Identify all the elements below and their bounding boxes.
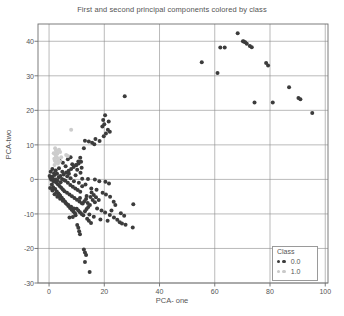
data-point xyxy=(64,164,68,168)
data-point xyxy=(79,160,83,164)
data-point xyxy=(97,179,101,183)
data-point xyxy=(54,168,58,172)
legend-swatch-1b xyxy=(282,270,285,273)
data-point xyxy=(310,111,314,115)
data-point xyxy=(97,198,101,202)
data-point xyxy=(103,211,107,215)
data-point xyxy=(78,156,82,160)
data-point xyxy=(80,166,84,170)
x-tick-label: 40 xyxy=(156,288,164,295)
legend-swatch-0 xyxy=(277,260,280,263)
data-point xyxy=(73,211,77,215)
data-point xyxy=(72,179,76,183)
data-point xyxy=(86,177,90,181)
data-point xyxy=(120,222,124,226)
y-tick-label: -10 xyxy=(12,210,34,217)
data-point xyxy=(82,146,86,150)
data-point xyxy=(69,176,73,180)
pca-scatter-figure: First and second principal components co… xyxy=(0,0,344,316)
gridlines xyxy=(38,24,328,283)
data-point xyxy=(112,215,116,219)
data-point xyxy=(77,181,81,185)
x-tick-label: 60 xyxy=(211,288,219,295)
data-point xyxy=(131,225,135,229)
legend-swatch-0b xyxy=(282,260,285,263)
data-point xyxy=(78,232,82,236)
data-point xyxy=(100,125,104,129)
y-tick-label: 0 xyxy=(12,176,34,183)
data-point xyxy=(83,139,87,143)
data-point xyxy=(107,119,111,123)
y-tick-label: 30 xyxy=(12,72,34,79)
data-point xyxy=(123,94,127,98)
data-point xyxy=(98,139,102,143)
data-point xyxy=(119,211,123,215)
data-point xyxy=(298,97,302,101)
data-point xyxy=(58,159,62,163)
data-point xyxy=(92,142,96,146)
x-tick-label: 0 xyxy=(47,288,51,295)
data-point xyxy=(95,206,99,210)
data-point xyxy=(109,208,113,212)
data-point xyxy=(108,213,112,217)
data-point xyxy=(104,193,108,197)
data-point xyxy=(93,200,97,204)
data-point xyxy=(200,60,204,64)
data-point xyxy=(86,201,90,205)
data-point xyxy=(85,217,89,221)
data-point xyxy=(253,100,257,104)
data-point xyxy=(53,163,57,167)
x-tick-label: 80 xyxy=(266,288,274,295)
legend-title: Class xyxy=(277,248,295,255)
data-point xyxy=(89,221,93,225)
y-tick-label: -30 xyxy=(12,280,34,287)
data-point xyxy=(62,178,66,182)
legend[interactable]: Class 0.0 1.0 xyxy=(272,246,318,281)
y-tick-label: -20 xyxy=(12,245,34,252)
data-point xyxy=(266,63,270,67)
y-tick-label: 10 xyxy=(12,141,34,148)
data-point xyxy=(100,208,104,212)
legend-item-1[interactable]: 1.0 xyxy=(277,268,301,275)
data-point xyxy=(78,190,82,194)
data-point xyxy=(113,203,117,207)
data-point xyxy=(60,170,64,174)
x-axis-label: PCA- one xyxy=(0,296,344,305)
data-point xyxy=(131,202,135,206)
data-point xyxy=(122,214,126,218)
data-point xyxy=(108,195,112,199)
data-point xyxy=(84,197,88,201)
data-point xyxy=(70,162,74,166)
data-point xyxy=(98,217,102,221)
data-point xyxy=(106,219,110,223)
data-point xyxy=(81,213,85,217)
data-point xyxy=(54,191,58,195)
data-point xyxy=(287,85,291,89)
data-point xyxy=(74,173,78,177)
x-tick-label: 100 xyxy=(319,288,331,295)
data-point xyxy=(248,44,252,48)
legend-label-1: 1.0 xyxy=(291,268,301,275)
data-point xyxy=(102,134,106,138)
data-point xyxy=(57,166,61,170)
y-tick-label: 20 xyxy=(12,107,34,114)
data-point xyxy=(93,137,97,141)
data-point xyxy=(236,31,240,35)
data-point xyxy=(66,154,70,158)
data-point xyxy=(83,260,87,264)
data-point xyxy=(67,215,71,219)
legend-item-0[interactable]: 0.0 xyxy=(277,258,301,265)
data-point xyxy=(75,168,79,172)
figure-caption-partial xyxy=(0,309,344,316)
data-point xyxy=(58,150,62,154)
data-point xyxy=(79,171,83,175)
data-point xyxy=(216,71,220,75)
y-tick-label: 40 xyxy=(12,38,34,45)
legend-swatch-1 xyxy=(277,270,280,273)
data-point xyxy=(87,213,91,217)
data-point xyxy=(271,100,275,104)
data-point xyxy=(92,215,96,219)
data-point xyxy=(72,206,76,210)
data-point xyxy=(69,128,73,132)
data-point xyxy=(67,172,71,176)
